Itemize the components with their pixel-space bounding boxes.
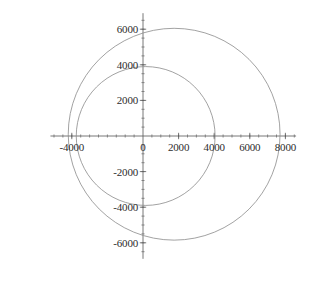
data-curve-outer-circle [68,28,280,240]
axes-group [50,13,296,259]
x-tick-label: -4000 [59,141,84,153]
y-tick-label: -6000 [113,237,138,249]
figure-container: -400002000400060008000 600040002000-2000… [0,0,326,296]
x-tick-label: 4000 [204,141,225,153]
curves-group [68,28,280,240]
x-tick-label: 8000 [275,141,296,153]
y-tick-label: -4000 [113,201,138,213]
y-tick-label: 2000 [117,94,138,106]
y-tick-label: 4000 [117,59,138,71]
x-tick-label: 0 [140,141,145,153]
y-tick-label: 6000 [117,23,138,35]
x-tick-label: 2000 [168,141,189,153]
x-tick-label: 6000 [239,141,260,153]
y-tick-label: -2000 [113,166,138,178]
